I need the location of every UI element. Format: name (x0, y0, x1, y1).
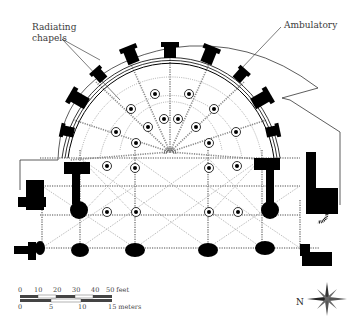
site-outline (20, 46, 340, 205)
scale-feet-50: 50 feet (106, 286, 129, 294)
walls (14, 152, 338, 266)
compass-rose-icon (307, 282, 347, 316)
scale-feet-40: 40 (91, 286, 99, 294)
scale-feet-30: 30 (72, 286, 80, 294)
scale-feet-20: 20 (53, 286, 61, 294)
scale-meters-5: 5 (49, 303, 53, 311)
north-label: N (296, 297, 304, 307)
radiating-chapels-label: Radiating chapels (32, 22, 76, 44)
radiating-chapels-label-line1: Radiating (32, 22, 76, 33)
scale-meters-10: 10 (78, 303, 86, 311)
cathedral-floor-plan (0, 0, 364, 328)
scale-feet-10: 10 (34, 286, 42, 294)
scale-meters-15: 15 meters (108, 303, 141, 311)
ambulatory-label: Ambulatory (284, 20, 337, 31)
scale-feet-0: 0 (18, 286, 22, 294)
scale-bar (20, 295, 112, 302)
radiating-chapels-label-line2: chapels (32, 33, 76, 44)
scale-meters-0: 0 (18, 303, 22, 311)
